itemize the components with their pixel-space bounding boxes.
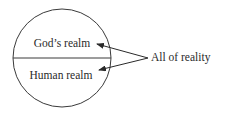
gods-realm-label: God’s realm <box>34 37 91 49</box>
diagram-canvas: God’s realm Human realm All of reality <box>0 0 225 116</box>
arrow-to-human-realm <box>99 58 148 70</box>
human-realm-label: Human realm <box>30 69 93 81</box>
realms-diagram: God’s realm Human realm All of reality <box>0 0 225 116</box>
all-of-reality-label: All of reality <box>151 51 211 64</box>
arrow-to-gods-realm <box>97 44 148 58</box>
